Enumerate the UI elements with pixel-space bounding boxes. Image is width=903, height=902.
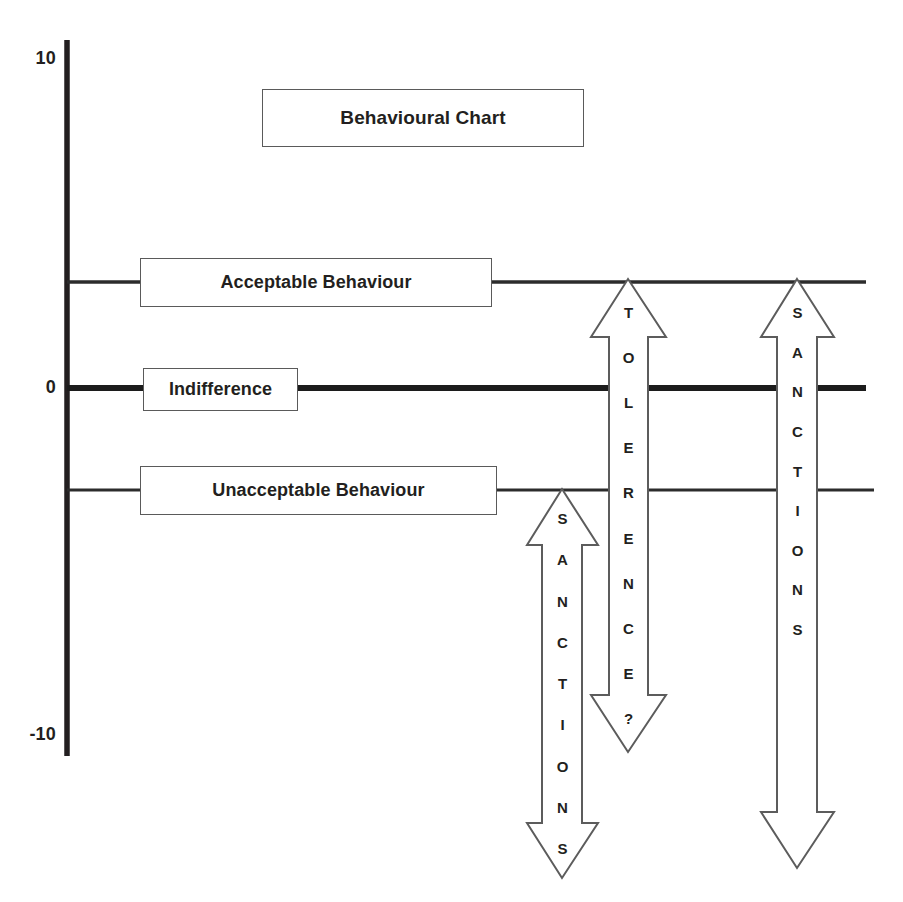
axis-tick-label-zero: 0 <box>0 377 56 398</box>
arrow-letter: N <box>557 800 568 815</box>
arrow-letter: C <box>557 635 568 650</box>
arrow-letter: O <box>623 350 635 365</box>
chart-title-box: Behavioural Chart <box>262 89 584 147</box>
arrow-letter: E <box>623 666 633 681</box>
middle-tolerence-arrow: TOLERENCE? <box>591 279 666 752</box>
arrow-letter: O <box>792 543 804 558</box>
right-sanctions-arrow-letters: SANCTIONS <box>761 305 834 637</box>
arrow-letter: T <box>558 676 567 691</box>
arrow-letter: S <box>792 305 802 320</box>
middle-tolerence-arrow-letters: TOLERENCE? <box>591 305 666 726</box>
arrow-letter: S <box>557 511 567 526</box>
right-sanctions-arrow: SANCTIONS <box>761 279 834 868</box>
arrow-letter: A <box>557 552 568 567</box>
arrow-letter: E <box>623 440 633 455</box>
left-sanctions-arrow: SANCTIONS <box>527 489 598 878</box>
left-sanctions-arrow-letters: SANCTIONS <box>527 511 598 856</box>
arrow-letter: O <box>557 759 569 774</box>
behavioural-chart-canvas: 10 0 -10 Behavioural Chart Acceptable Be… <box>0 0 903 902</box>
arrow-letter: E <box>623 531 633 546</box>
arrow-letter: I <box>795 503 799 518</box>
acceptable-behaviour-box: Acceptable Behaviour <box>140 258 492 307</box>
arrow-letter: S <box>557 841 567 856</box>
arrow-letter: C <box>792 424 803 439</box>
arrow-letter: S <box>792 622 802 637</box>
arrow-letter: R <box>623 485 634 500</box>
arrow-letter: T <box>624 305 633 320</box>
arrow-letter: I <box>560 717 564 732</box>
unacceptable-behaviour-box: Unacceptable Behaviour <box>140 466 497 515</box>
arrow-letter: N <box>623 576 634 591</box>
arrow-letter: C <box>623 621 634 636</box>
arrow-letter: N <box>557 594 568 609</box>
indifference-box: Indifference <box>143 368 298 411</box>
acceptable-behaviour-label: Acceptable Behaviour <box>220 272 411 293</box>
arrow-letter: A <box>792 345 803 360</box>
arrow-letter: N <box>792 384 803 399</box>
arrow-letter: ? <box>624 711 633 726</box>
unacceptable-behaviour-label: Unacceptable Behaviour <box>212 480 424 501</box>
arrow-letter: T <box>793 464 802 479</box>
indifference-label: Indifference <box>169 379 272 400</box>
chart-title-text: Behavioural Chart <box>340 107 505 129</box>
arrow-letter: N <box>792 582 803 597</box>
axis-tick-label-top: 10 <box>0 48 56 69</box>
axis-tick-label-bottom: -10 <box>0 724 56 745</box>
arrow-letter: L <box>624 395 633 410</box>
